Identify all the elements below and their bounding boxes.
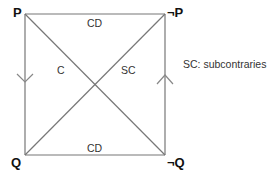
edge-label-bottom: CD [87,142,103,154]
edge-label-top: CD [87,17,103,29]
corner-label-top-right: ¬P [167,5,184,20]
square-of-opposition-diagram: P ¬P Q ¬Q CD CD C SC SC: subcontraries [0,0,275,177]
legend-text: SC: subcontraries [183,58,266,70]
edge-label-diagonal-right: SC [121,64,136,76]
corner-label-bottom-left: Q [11,155,21,170]
corner-label-top-left: P [13,5,22,20]
corner-label-bottom-right: ¬Q [167,155,185,170]
edge-label-diagonal-left: C [57,64,65,76]
